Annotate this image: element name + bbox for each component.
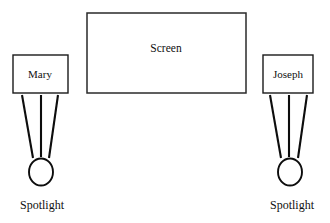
actor-right-spotlight-caption: Spotlight — [270, 198, 315, 212]
stage-lighting-diagram: Screen Mary Spotlight Joseph Spotlight — [0, 0, 330, 223]
actor-left-ray-1 — [22, 95, 33, 158]
actor-right-spotlight-bulb-icon — [278, 159, 302, 186]
diagram-canvas: Screen Mary Spotlight Joseph Spotlight — [0, 0, 330, 223]
actor-left-spotlight-caption: Spotlight — [20, 198, 65, 212]
actor-right-ray-3 — [298, 95, 307, 158]
actor-left-spotlight-bulb-icon — [29, 159, 53, 186]
actor-left-label: Mary — [28, 68, 52, 80]
actor-right-ray-1 — [270, 95, 281, 158]
actor-right-label: Joseph — [273, 68, 303, 80]
actor-left-ray-3 — [49, 95, 58, 158]
screen-label: Screen — [150, 42, 182, 54]
